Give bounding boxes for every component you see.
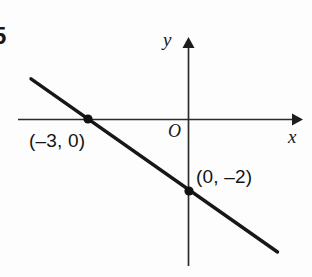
y-axis-arrowhead bbox=[183, 37, 195, 48]
y-axis bbox=[183, 37, 195, 266]
x-axis bbox=[18, 114, 303, 126]
point-marker-0-neg2 bbox=[184, 186, 193, 195]
point-label-neg3-0: (–3, 0) bbox=[29, 131, 85, 150]
graph-figure: 5 y x O (–3, 0) (0, –2) bbox=[0, 0, 312, 277]
y-axis-label: y bbox=[163, 30, 171, 49]
x-axis-arrowhead bbox=[292, 114, 303, 126]
point-label-0-neg2: (0, –2) bbox=[196, 167, 252, 186]
origin-label: O bbox=[168, 122, 181, 140]
point-marker-neg3-0 bbox=[83, 114, 92, 123]
x-axis-label: x bbox=[288, 127, 296, 146]
